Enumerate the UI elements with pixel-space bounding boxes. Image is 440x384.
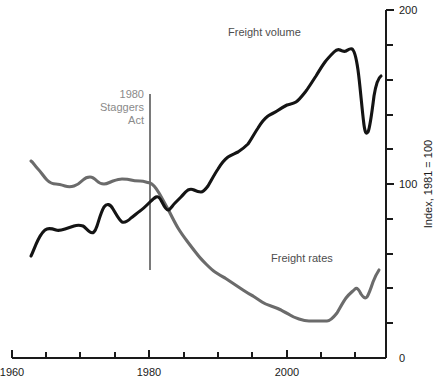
series-label-freight-volume: Freight volume xyxy=(228,26,301,38)
series-line-freight-rates xyxy=(31,161,379,321)
series-label-freight-rates: Freight rates xyxy=(271,252,333,264)
staggers-act-label-year: 1980 xyxy=(120,88,144,100)
y-tick-label-200: 200 xyxy=(399,4,417,16)
series-line-freight-volume xyxy=(31,49,381,256)
y-tick-label-0: 0 xyxy=(399,352,405,364)
chart-canvas: 1960 1980 2000 200 100 0 Index, 1981 = 1… xyxy=(0,0,440,384)
x-tick-label-1980: 1980 xyxy=(137,366,161,378)
freight-index-chart: 1960 1980 2000 200 100 0 Index, 1981 = 1… xyxy=(0,0,440,384)
staggers-act-label-name: Staggers xyxy=(100,101,145,113)
x-tick-label-1960: 1960 xyxy=(0,366,24,378)
staggers-act-label-act: Act xyxy=(128,114,144,126)
y-tick-group xyxy=(386,45,394,323)
axis-group xyxy=(12,10,394,358)
y-axis-title: Index, 1981 = 100 xyxy=(422,140,434,228)
x-tick-label-2000: 2000 xyxy=(275,366,299,378)
x-tick-group xyxy=(46,350,355,358)
y-tick-label-100: 100 xyxy=(399,178,417,190)
